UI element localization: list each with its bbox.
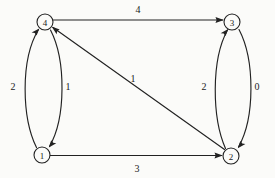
graph-canvas: 4 3 1 2 4 3 2 1 2 0 1 bbox=[0, 0, 275, 178]
node-1-label: 1 bbox=[40, 151, 45, 161]
node-4[interactable]: 4 bbox=[37, 14, 53, 30]
edge-2-to-4-line bbox=[53, 28, 225, 150]
edge-weight-1-to-2: 3 bbox=[135, 163, 140, 174]
edge-4-to-3-arrowhead bbox=[216, 17, 224, 23]
edge-4-to-1-curve bbox=[50, 30, 63, 147]
edge-1-to-2 bbox=[50, 153, 223, 159]
node-3-label: 3 bbox=[230, 18, 235, 28]
edge-2-to-4 bbox=[52, 27, 225, 150]
edge-weight-3-to-2: 0 bbox=[255, 81, 260, 92]
edge-weight-4-to-1: 1 bbox=[66, 81, 71, 92]
graph-figure: 4 3 1 2 4 3 2 1 2 0 1 bbox=[0, 0, 275, 178]
edge-2-to-3 bbox=[215, 29, 228, 149]
edge-1-to-4 bbox=[25, 28, 39, 147]
edge-weight-2-to-3: 2 bbox=[202, 81, 207, 92]
edge-3-to-2-curve bbox=[239, 30, 251, 148]
node-3[interactable]: 3 bbox=[224, 14, 240, 30]
node-2-label: 2 bbox=[229, 152, 234, 162]
edge-1-to-4-curve bbox=[25, 30, 38, 148]
edge-2-to-4-arrowhead bbox=[52, 27, 60, 35]
edge-weight-1-to-4: 2 bbox=[11, 81, 16, 92]
edge-1-to-2-arrowhead bbox=[215, 153, 223, 159]
node-2[interactable]: 2 bbox=[223, 148, 239, 164]
node-1[interactable]: 1 bbox=[34, 147, 50, 163]
edge-4-to-3 bbox=[54, 17, 224, 23]
edge-4-to-1 bbox=[49, 30, 62, 148]
edge-weight-2-to-4: 1 bbox=[131, 73, 136, 84]
edge-2-to-3-curve bbox=[215, 30, 227, 149]
node-4-label: 4 bbox=[43, 18, 48, 28]
edge-3-to-2 bbox=[238, 30, 251, 149]
edge-weight-4-to-3: 4 bbox=[136, 4, 141, 15]
